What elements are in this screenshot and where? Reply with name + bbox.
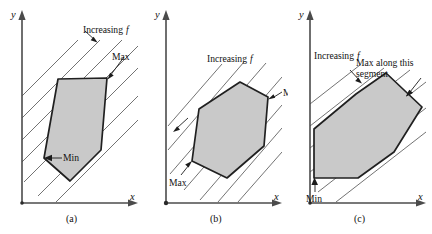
- y-axis-label: y: [298, 9, 304, 20]
- annotation-max-b: [181, 161, 192, 175]
- y-axis-label: y: [154, 9, 160, 20]
- y-axis-label: y: [10, 9, 16, 20]
- panel-b: y x Increasingf Min Max (b): [144, 0, 288, 234]
- caption-a: (a): [66, 213, 77, 225]
- x-axis-label: x: [417, 191, 423, 202]
- max-segment-label-line1-c: Max along this: [356, 57, 414, 68]
- linear-programming-figure: y x Increasingf Max Min (a): [0, 0, 432, 234]
- annotation-min-b: [268, 92, 282, 100]
- x-axis-label: x: [273, 191, 279, 202]
- max-segment-label-line2-c: segment: [356, 68, 388, 79]
- panel-a: y x Increasingf Max Min (a): [0, 0, 144, 234]
- feasible-region-a: [44, 78, 107, 181]
- min-label-c: Min: [306, 193, 322, 204]
- increasing-f-label-b: Increasingf: [207, 53, 254, 64]
- caption-c: (c): [354, 213, 365, 225]
- panel-c: y x Increasingf Max along this segment M…: [288, 0, 432, 234]
- x-axis-label: x: [129, 191, 135, 202]
- increasing-f-label-c: Increasingf: [314, 50, 361, 61]
- caption-b: (b): [210, 213, 222, 225]
- increasing-f-label-a: Increasingf: [83, 24, 130, 35]
- annotation-min-c: [311, 178, 318, 193]
- max-label-a: Max: [112, 51, 130, 62]
- feasible-region-b: [192, 82, 268, 178]
- max-label-b: Max: [169, 177, 187, 188]
- min-label-a: Min: [63, 152, 79, 163]
